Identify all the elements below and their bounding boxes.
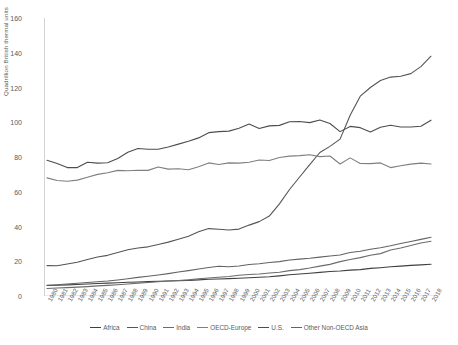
legend-item-label: Other Non-OECD Asia xyxy=(304,324,368,331)
chart-legend: AfricaChinaIndiaOECD-EuropeU.S.Other Non… xyxy=(0,324,458,331)
legend-line-icon xyxy=(197,327,208,328)
legend-item[interactable]: Africa xyxy=(90,324,119,331)
legend-item[interactable]: India xyxy=(163,324,190,331)
legend-line-icon xyxy=(291,327,302,328)
legend-item[interactable]: OECD-Europe xyxy=(197,324,251,331)
legend-item-label: U.S. xyxy=(271,324,283,331)
legend-item-label: OECD-Europe xyxy=(210,324,251,331)
legend-item-label: China xyxy=(140,324,157,331)
legend-item-label: Africa xyxy=(103,324,119,331)
legend-line-icon xyxy=(127,327,138,328)
legend-line-icon xyxy=(163,327,174,328)
legend-item[interactable]: U.S. xyxy=(258,324,283,331)
x-axis-ticks: 1980198119821983198419851986198719881989… xyxy=(0,0,458,345)
legend-item-label: India xyxy=(176,324,190,331)
legend-line-icon xyxy=(90,327,101,328)
legend-item[interactable]: Other Non-OECD Asia xyxy=(291,324,368,331)
legend-item[interactable]: China xyxy=(127,324,157,331)
legend-line-icon xyxy=(258,327,269,328)
chart-container: Quadrillion British thermal units 020406… xyxy=(0,0,458,345)
x-tick-label: 1980 xyxy=(46,287,59,302)
